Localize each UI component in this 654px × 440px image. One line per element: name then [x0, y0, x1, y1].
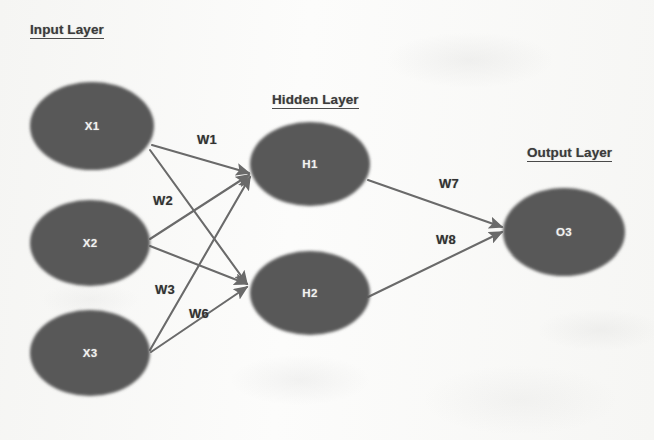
- layer-title-text: Input Layer: [30, 22, 104, 39]
- layer-title-input: Input Layer: [30, 22, 104, 39]
- node-label-h2: H2: [302, 287, 317, 299]
- layer-title-text: Hidden Layer: [272, 92, 359, 109]
- weight-label-w1: W1: [197, 132, 217, 147]
- node-label-h1: H1: [302, 158, 317, 170]
- weight-label-w6: W6: [189, 306, 209, 321]
- connection-x1-to-h1: [152, 145, 249, 173]
- connection-h1-to-o3: [368, 180, 502, 227]
- layer-title-text: Output Layer: [527, 145, 612, 162]
- layer-title-hidden: Hidden Layer: [272, 92, 359, 109]
- network-nodes: [30, 82, 625, 396]
- weight-label-w2: W2: [153, 193, 173, 208]
- node-label-x3: X3: [83, 347, 98, 359]
- layer-title-output: Output Layer: [527, 145, 612, 162]
- weight-label-w8: W8: [436, 232, 456, 247]
- connection-h2-to-o3: [368, 232, 502, 297]
- node-label-o3: O3: [556, 226, 572, 238]
- neural-network-diagram: Input LayerHidden LayerOutput Layer X1X2…: [0, 0, 654, 440]
- node-label-x1: X1: [85, 120, 100, 132]
- network-graphics: [0, 0, 654, 440]
- weight-label-w7: W7: [439, 176, 459, 191]
- weight-label-w3: W3: [155, 282, 175, 297]
- node-label-x2: X2: [83, 237, 98, 249]
